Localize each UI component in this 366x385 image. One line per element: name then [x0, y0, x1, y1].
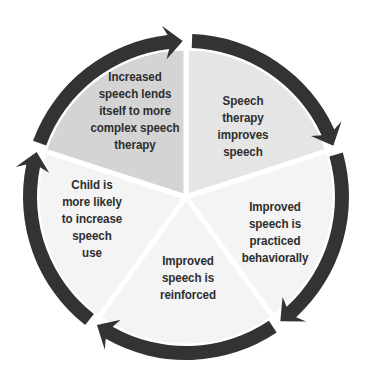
step-label-child-more-likely: Child is more likely to increase speech … [62, 176, 122, 261]
label-line: practiced [242, 232, 309, 249]
step-label-improved-speech-practiced: Improved speech is practiced behaviorall… [242, 198, 309, 266]
label-line: speech is [242, 215, 309, 232]
step-label-speech-therapy-improves-speech: Speech therapy improves speech [218, 92, 269, 160]
label-line: speech is [160, 269, 216, 286]
label-line: behaviorally [242, 249, 309, 266]
label-line: speech [62, 227, 122, 244]
label-line: speech lends [90, 85, 179, 102]
label-line: itself to more [90, 102, 179, 119]
speech-therapy-cycle-diagram [0, 0, 366, 385]
label-line: speech [218, 143, 269, 160]
label-line: complex speech [90, 119, 179, 136]
label-line: therapy [218, 109, 269, 126]
label-line: to increase [62, 210, 122, 227]
step-label-improved-speech-reinforced: Improved speech is reinforced [160, 252, 216, 303]
label-line: Increased [90, 68, 179, 85]
label-line: reinforced [160, 286, 216, 303]
label-line: Improved [160, 252, 216, 269]
step-label-increased-speech-complex-therapy: Increased speech lends itself to more co… [90, 68, 179, 153]
label-line: improves [218, 126, 269, 143]
label-line: use [62, 244, 122, 261]
label-line: Child is [62, 176, 122, 193]
label-line: Speech [218, 92, 269, 109]
label-line: Improved [242, 198, 309, 215]
label-line: therapy [90, 136, 179, 153]
label-line: more likely [62, 193, 122, 210]
